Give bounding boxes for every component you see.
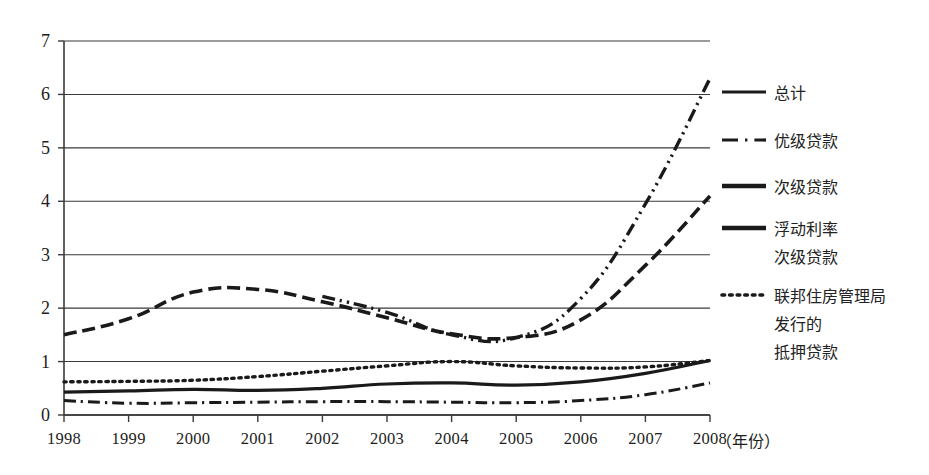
legend-label: 次级贷款 — [774, 248, 838, 267]
line-chart: 01234567 1998199920002001200220032004200… — [0, 0, 929, 475]
chart-container: 01234567 1998199920002001200220032004200… — [0, 0, 929, 475]
y-axis-tick-label: 5 — [41, 138, 50, 158]
x-axis-unit-label: （年份） — [716, 432, 780, 451]
x-axis-tick-label: 2000 — [176, 429, 210, 448]
y-axis-tick-label: 4 — [41, 191, 50, 211]
x-axis-tick-label: 2005 — [499, 429, 533, 448]
y-axis-tick-label: 1 — [41, 352, 50, 372]
x-axis-tick-label: 2004 — [434, 429, 468, 448]
legend-label: 抵押贷款 — [774, 343, 838, 362]
x-axis-tick-label: 2007 — [628, 429, 662, 448]
legend-label: 优级贷款 — [774, 132, 838, 151]
y-axis-tick-label: 6 — [41, 84, 50, 104]
x-axis-tick-label: 1999 — [111, 429, 145, 448]
legend-label: 联邦住房管理局 — [774, 287, 886, 306]
legend-label: 浮动利率 — [774, 220, 838, 239]
legend-label: 次级贷款 — [774, 178, 838, 197]
y-axis-tick-label: 7 — [41, 31, 50, 51]
y-axis-tick-label: 3 — [41, 245, 50, 265]
x-axis-tick-label: 2006 — [564, 429, 598, 448]
x-axis-tick-label: 2003 — [370, 429, 404, 448]
x-axis-tick-label: 2001 — [241, 429, 275, 448]
legend-label: 发行的 — [774, 315, 822, 334]
y-axis-tick-label: 0 — [41, 405, 50, 425]
y-axis-tick-label: 2 — [41, 298, 50, 318]
x-axis-tick-label: 2002 — [305, 429, 339, 448]
x-axis-tick-label: 1998 — [47, 429, 81, 448]
legend-label: 总计 — [774, 84, 806, 103]
